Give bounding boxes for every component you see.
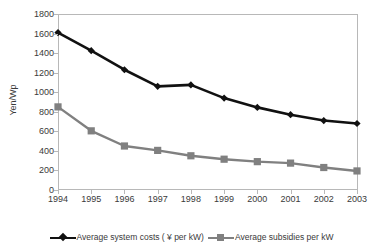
x-tick-mark <box>257 190 258 194</box>
x-tick-mark <box>357 190 358 194</box>
chart-legend: Average system costs ( ¥ per kW)Average … <box>0 226 387 248</box>
x-axis-tick-2003: 2003 <box>347 194 367 205</box>
y-tick-mark <box>54 92 58 93</box>
y-axis-tick-600: 600 <box>39 127 54 136</box>
data-point <box>221 156 228 163</box>
square-marker-icon <box>208 231 234 243</box>
diamond-icon <box>58 233 66 241</box>
data-point <box>320 164 327 171</box>
y-tick-mark <box>54 170 58 171</box>
x-axis-tick-2001: 2001 <box>281 194 301 205</box>
x-axis-tick-1998: 1998 <box>181 194 201 205</box>
data-point <box>254 158 261 165</box>
y-axis-tick-1200: 1200 <box>34 68 54 77</box>
data-point <box>254 104 261 111</box>
data-point <box>353 120 360 127</box>
diamond-marker-icon <box>50 231 76 243</box>
y-axis-tick-200: 200 <box>39 166 54 175</box>
data-point <box>353 167 360 174</box>
data-point <box>320 117 327 124</box>
y-axis-tick-800: 800 <box>39 107 54 116</box>
y-tick-mark <box>54 151 58 152</box>
y-axis-tick-1800: 1800 <box>34 10 54 19</box>
y-axis-tick-1000: 1000 <box>34 88 54 97</box>
y-tick-mark <box>54 73 58 74</box>
y-tick-mark <box>54 112 58 113</box>
y-tick-mark <box>54 14 58 15</box>
data-point <box>187 152 194 159</box>
series-layer <box>58 14 358 190</box>
y-axis-tick-400: 400 <box>39 146 54 155</box>
series-subsidies <box>54 103 360 174</box>
data-point <box>54 103 61 110</box>
data-point <box>121 142 128 149</box>
square-icon <box>217 234 224 241</box>
data-point <box>221 94 228 101</box>
x-axis-tick-1999: 1999 <box>214 194 234 205</box>
x-tick-mark <box>224 190 225 194</box>
x-tick-mark <box>91 190 92 194</box>
x-tick-mark <box>291 190 292 194</box>
y-tick-mark <box>54 53 58 54</box>
x-axis-tick-2000: 2000 <box>247 194 267 205</box>
series-line <box>58 33 357 124</box>
data-point <box>187 81 194 88</box>
y-axis-tick-1400: 1400 <box>34 49 54 58</box>
series-system-costs <box>54 29 360 127</box>
x-tick-mark <box>191 190 192 194</box>
legend-label: Average subsidies per kW <box>235 232 338 242</box>
data-point <box>287 160 294 167</box>
chart-container: Yen/Wp 020040060080010001200140016001800… <box>0 0 387 251</box>
x-axis-tick-labels: 1994199519961997199819992000200120022003 <box>58 194 358 210</box>
legend-item-subsidies[interactable]: Average subsidies per kW <box>208 231 338 243</box>
y-axis-tick-1600: 1600 <box>34 29 54 38</box>
data-point <box>287 111 294 118</box>
series-line <box>58 107 357 171</box>
x-tick-mark <box>324 190 325 194</box>
data-point <box>88 127 95 134</box>
legend-label: Average system costs ( ¥ per kW) <box>77 232 208 242</box>
x-axis-tick-1996: 1996 <box>114 194 134 205</box>
x-tick-mark <box>58 190 59 194</box>
x-axis-tick-2002: 2002 <box>314 194 334 205</box>
y-tick-mark <box>54 34 58 35</box>
x-axis-tick-1997: 1997 <box>148 194 168 205</box>
x-tick-mark <box>124 190 125 194</box>
y-axis-tick-labels: 020040060080010001200140016001800 <box>20 14 56 190</box>
legend-item-system-costs[interactable]: Average system costs ( ¥ per kW) <box>50 231 208 243</box>
y-tick-mark <box>54 131 58 132</box>
x-axis-tick-1994: 1994 <box>48 194 68 205</box>
y-axis-title-label: Yen/Wp <box>8 84 18 115</box>
x-tick-mark <box>158 190 159 194</box>
data-point <box>154 147 161 154</box>
x-axis-tick-1995: 1995 <box>81 194 101 205</box>
